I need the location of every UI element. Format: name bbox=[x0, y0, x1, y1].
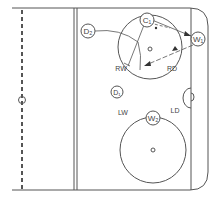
position-label-rw: RW bbox=[115, 65, 127, 72]
puck-icon bbox=[155, 27, 157, 29]
player-w2: W₂ bbox=[146, 111, 160, 125]
player-label: D₂ bbox=[84, 27, 93, 36]
player-c1: C₁ bbox=[140, 13, 154, 27]
player-d2: D₂ bbox=[81, 24, 95, 38]
faceoff-circle-lower bbox=[120, 117, 186, 183]
skating-path-c1 bbox=[128, 25, 144, 66]
player-d1: D₁ bbox=[111, 86, 123, 98]
position-label-rd: RD bbox=[167, 65, 177, 72]
player-label: D₁ bbox=[113, 89, 121, 96]
faceoff-dot-lower bbox=[151, 148, 155, 152]
player-w1: W₁ bbox=[191, 32, 205, 46]
position-label-ld: LD bbox=[171, 107, 180, 114]
player-label: C₁ bbox=[143, 16, 152, 25]
player-label: W₂ bbox=[148, 114, 159, 123]
faceoff-dot-upper bbox=[148, 47, 152, 51]
pass-arrow-w1-slot bbox=[146, 45, 193, 65]
position-label-lw: LW bbox=[118, 109, 128, 116]
goal-crease bbox=[183, 88, 191, 108]
hockey-rink-diagram: D₂ C₁ W₁ D₁ W₂ RW RD LW LD bbox=[0, 0, 220, 197]
arrow-head-icon bbox=[172, 46, 178, 51]
arrow-head-icon bbox=[184, 31, 191, 36]
player-label: W₁ bbox=[193, 35, 204, 44]
arrow-head-icon bbox=[144, 61, 151, 66]
